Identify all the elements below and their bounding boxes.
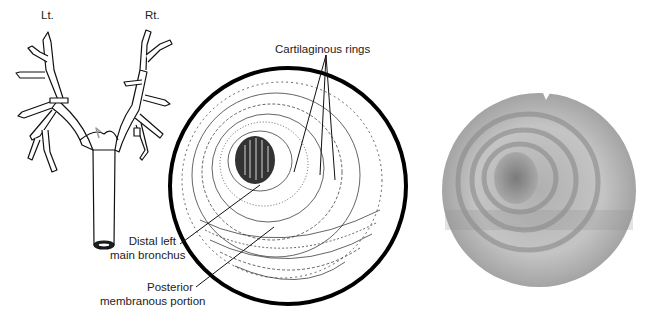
callout-distal-left-main-bronchus: Distal left main bronchus bbox=[110, 234, 176, 262]
callout-line-1: Posterior bbox=[100, 280, 193, 294]
callout-line-1: Distal left bbox=[110, 234, 176, 248]
bronchial-tree-illustration bbox=[16, 30, 172, 249]
callout-cartilaginous-rings: Cartilaginous rings bbox=[275, 42, 370, 56]
endoscopic-photograph bbox=[442, 93, 636, 287]
callout-posterior-membranous-portion: Posterior membranous portion bbox=[100, 280, 193, 308]
callout-line-2: main bronchus bbox=[110, 248, 176, 262]
endoscopic-drawing bbox=[170, 55, 406, 304]
callout-line-2: membranous portion bbox=[100, 294, 193, 308]
